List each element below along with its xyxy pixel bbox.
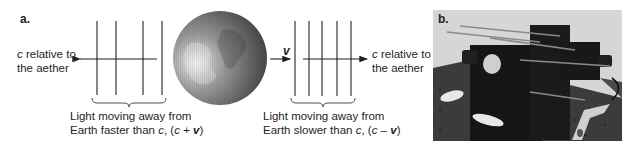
- caption-text: ): [199, 124, 203, 136]
- caption-line-1: Light moving away from: [263, 109, 383, 123]
- caption-line-2: Earth slower than c, (c – v): [263, 123, 383, 137]
- velocity-label: v: [283, 44, 290, 58]
- earth-globe-icon: [173, 11, 267, 105]
- right-caption: Light moving away from Earth slower than…: [263, 109, 383, 137]
- caption-line-1: Light moving away from: [70, 109, 190, 123]
- caption-text: Earth faster than: [70, 124, 158, 136]
- caption-text: , (: [361, 124, 371, 136]
- panel-b-label: b.: [438, 12, 449, 26]
- caption-text: –: [377, 124, 390, 136]
- caption-text: , (: [164, 124, 174, 136]
- left-brace: [92, 98, 166, 107]
- caption-text: Earth slower than: [263, 124, 356, 136]
- apparatus-photo: [433, 10, 622, 141]
- left-caption: Light moving away from Earth faster than…: [70, 109, 190, 137]
- left-wavefronts: [97, 21, 162, 95]
- right-brace: [291, 98, 355, 107]
- caption-text: ): [397, 124, 401, 136]
- caption-text: +: [180, 124, 193, 136]
- caption-line-2: Earth faster than c, (c + v): [70, 123, 190, 137]
